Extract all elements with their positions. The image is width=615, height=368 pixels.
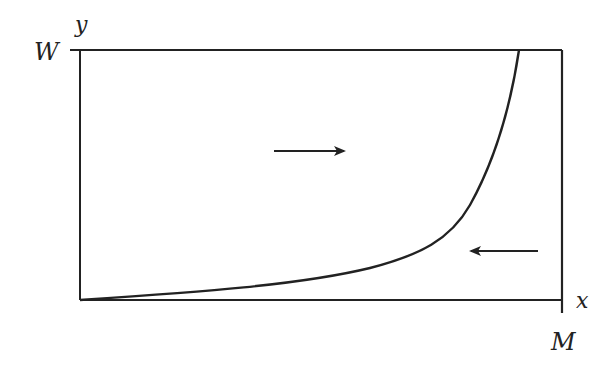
- w-label: W: [34, 38, 61, 66]
- diagram-canvas: y W x M: [0, 0, 615, 368]
- separatrix-curve: [80, 50, 519, 300]
- x-axis-label: x: [576, 288, 589, 313]
- m-label: M: [550, 328, 577, 356]
- y-axis-label: y: [74, 12, 88, 37]
- domain-box: [70, 50, 562, 313]
